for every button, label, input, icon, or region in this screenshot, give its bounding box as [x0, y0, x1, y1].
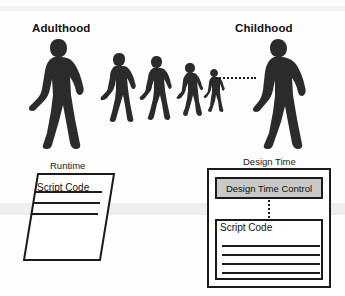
heading-adulthood: Adulthood: [32, 22, 90, 34]
walker-child-large: [252, 37, 310, 149]
walker-4: [176, 62, 204, 116]
diagram-canvas: Adulthood Childhood Runtime: [0, 0, 345, 296]
label-runtime: Runtime: [50, 160, 85, 171]
code-line: [222, 254, 320, 256]
design-time-script-code-label: Script Code: [220, 222, 272, 233]
code-line: [222, 263, 320, 265]
walker-3: [139, 55, 174, 120]
walker-5: [203, 68, 225, 112]
heading-childhood: Childhood: [235, 22, 293, 34]
runtime-script-code-label: Script Code: [37, 182, 89, 193]
scan-artifact-top: [0, 6, 345, 11]
code-line: [222, 272, 320, 274]
walker-adult-large: [28, 37, 88, 149]
design-time-control-label: Design Time Control: [226, 183, 312, 194]
design-time-control-box[interactable]: Design Time Control: [215, 177, 323, 199]
dotted-connector-line: [216, 77, 256, 79]
walker-2: [100, 52, 138, 122]
vertical-dotted-link: [268, 200, 270, 218]
label-design-time: Design Time: [243, 156, 296, 167]
code-line: [222, 245, 320, 247]
